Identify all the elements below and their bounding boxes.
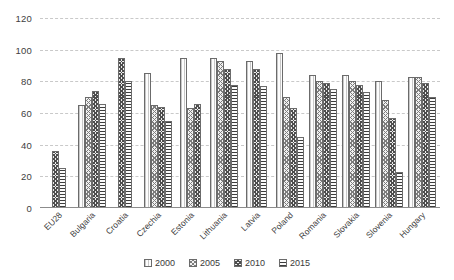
y-tick-label: 20 xyxy=(21,171,32,182)
bar xyxy=(52,151,59,208)
bar xyxy=(316,81,323,208)
bar xyxy=(217,61,224,208)
bar xyxy=(151,105,158,208)
bar-group xyxy=(240,18,273,208)
y-tick-label: 60 xyxy=(21,108,32,119)
x-tick-label: Croatia xyxy=(103,210,129,236)
bar xyxy=(85,97,92,208)
bar-group xyxy=(372,18,405,208)
bar xyxy=(246,61,253,208)
bar-group xyxy=(42,18,75,208)
bar-group xyxy=(339,18,372,208)
x-tick-label: Bulgaria xyxy=(67,210,96,239)
y-tick-label: 40 xyxy=(21,139,32,150)
bar xyxy=(158,107,165,208)
bar xyxy=(356,85,363,209)
bar xyxy=(422,83,429,208)
bar xyxy=(429,97,436,208)
x-tick-label: Romania xyxy=(296,210,327,241)
bar-group xyxy=(75,18,108,208)
legend-label: 2015 xyxy=(290,258,310,268)
y-tick-label: 100 xyxy=(16,44,32,55)
x-axis-line xyxy=(40,207,440,208)
x-tick-label: Slovakia xyxy=(331,210,361,240)
bar xyxy=(375,81,382,208)
bar-group xyxy=(306,18,339,208)
bar-group xyxy=(273,18,306,208)
plot-area xyxy=(40,18,440,208)
bar xyxy=(187,108,194,208)
x-tick-label: Lithuania xyxy=(197,210,228,241)
legend-swatch-icon xyxy=(234,259,242,267)
legend-item-2005[interactable]: 2005 xyxy=(189,258,220,268)
bar xyxy=(363,92,370,208)
y-tick-label: 0 xyxy=(27,203,32,214)
bar xyxy=(224,69,231,208)
y-tick-label: 80 xyxy=(21,76,32,87)
bar xyxy=(297,137,304,208)
bar-group xyxy=(174,18,207,208)
bar xyxy=(330,89,337,208)
bar-group xyxy=(405,18,438,208)
bar xyxy=(382,100,389,208)
bar xyxy=(194,104,201,209)
bar xyxy=(342,75,349,208)
legend-label: 2005 xyxy=(200,258,220,268)
chart-legend: 2000200520102015 xyxy=(0,258,454,268)
bar xyxy=(118,58,125,208)
bar xyxy=(396,172,403,208)
legend-swatch-icon xyxy=(144,259,152,267)
bar xyxy=(165,121,172,208)
legend-label: 2010 xyxy=(245,258,265,268)
legend-swatch-icon xyxy=(189,259,197,267)
bar xyxy=(99,104,106,209)
y-tick-label: 120 xyxy=(16,13,32,24)
bar xyxy=(323,83,330,208)
bar-groups xyxy=(40,18,440,208)
bar xyxy=(180,58,187,208)
bar xyxy=(210,58,217,208)
x-tick-label: Slovenia xyxy=(363,210,393,240)
bar xyxy=(59,168,66,208)
bar xyxy=(260,86,267,208)
bar xyxy=(78,105,85,208)
bar xyxy=(231,85,238,209)
x-axis-labels: EU28BulgariaCroatiaCzechiaEstoniaLithuan… xyxy=(40,210,440,256)
bar xyxy=(349,81,356,208)
x-tick-label: Latvia xyxy=(238,210,261,233)
x-tick-label: Czechia xyxy=(134,210,163,239)
bar xyxy=(408,77,415,208)
legend-label: 2000 xyxy=(155,258,175,268)
x-tick-label: Estonia xyxy=(168,210,195,237)
bar-chart: 020406080100120 EU28BulgariaCroatiaCzech… xyxy=(0,0,454,280)
bar-group xyxy=(207,18,240,208)
bar xyxy=(389,118,396,208)
bar xyxy=(309,75,316,208)
bar xyxy=(276,53,283,208)
bar-group xyxy=(108,18,141,208)
y-axis-labels: 020406080100120 xyxy=(0,18,36,208)
bar xyxy=(415,77,422,208)
x-tick-label: EU28 xyxy=(41,210,63,232)
bar-group xyxy=(141,18,174,208)
bar xyxy=(253,69,260,208)
bar xyxy=(144,73,151,208)
x-tick-label: Poland xyxy=(269,210,295,236)
legend-swatch-icon xyxy=(279,259,287,267)
legend-item-2010[interactable]: 2010 xyxy=(234,258,265,268)
x-tick-label: Hungary xyxy=(397,210,427,240)
legend-item-2015[interactable]: 2015 xyxy=(279,258,310,268)
bar xyxy=(283,97,290,208)
legend-item-2000[interactable]: 2000 xyxy=(144,258,175,268)
bar xyxy=(92,91,99,208)
bar xyxy=(125,81,132,208)
bar xyxy=(290,108,297,208)
